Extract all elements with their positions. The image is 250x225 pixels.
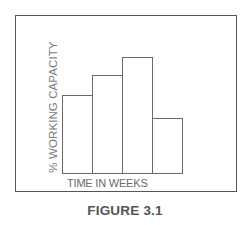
x-axis-label: TIME IN WEEKS [67,177,148,189]
bar-2 [92,75,123,174]
bar-1 [62,95,93,174]
bar-4 [152,118,183,174]
figure-caption: FIGURE 3.1 [0,203,250,218]
bar-3 [122,57,153,174]
bar-chart [0,0,250,225]
y-axis-label: % WORKING CAPACITY [47,41,59,172]
